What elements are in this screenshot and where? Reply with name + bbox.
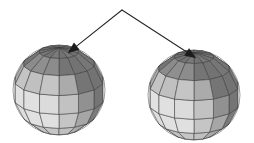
sphere-facet — [175, 99, 194, 119]
figure-canvas — [0, 0, 254, 143]
pointers-group — [68, 10, 196, 58]
sphere-right — [148, 50, 240, 140]
sphere-facet — [194, 99, 213, 119]
sphere-facet — [59, 94, 78, 114]
faceted-spheres-scene — [0, 0, 254, 143]
pointer-left-line — [77, 10, 122, 46]
sphere-facet — [40, 94, 59, 114]
spheres-group — [13, 45, 240, 140]
pointer-right-line — [122, 10, 187, 52]
sphere-left — [13, 45, 105, 135]
